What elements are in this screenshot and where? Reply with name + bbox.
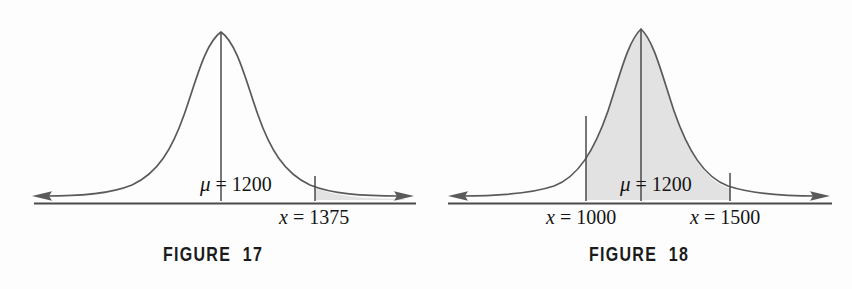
mean-value: 1200: [652, 173, 692, 195]
x-equals: =: [288, 206, 309, 228]
figure-page: μ = 1200 x = 1375 FIGURE 17: [0, 0, 852, 289]
figure-17-caption: FIGURE 17: [38, 243, 387, 266]
figure-17: μ = 1200 x = 1375 FIGURE 17: [0, 0, 426, 289]
mean-equals: =: [631, 173, 652, 195]
x-value: 1000: [576, 206, 616, 228]
x-variable: x: [279, 206, 288, 228]
figure-18-caption: FIGURE 18: [464, 243, 813, 266]
figure-18-boundary-label-x-1500: x = 1500: [690, 207, 760, 227]
x-equals: =: [699, 206, 720, 228]
normal-curve: [44, 32, 400, 196]
mu-symbol: μ: [200, 172, 211, 196]
figure-17-mean-label: μ = 1200: [200, 174, 272, 195]
figure-18: μ = 1200 x = 1000 x = 1500 FIGURE 18: [426, 0, 852, 289]
x-variable: x: [546, 206, 555, 228]
mean-equals: =: [211, 173, 232, 195]
mean-value: 1200: [232, 173, 272, 195]
figure-18-mean-label: μ = 1200: [620, 174, 692, 195]
mu-symbol: μ: [620, 172, 631, 196]
figure-18-boundary-label-x-1000: x = 1000: [546, 207, 616, 227]
x-equals: =: [555, 206, 576, 228]
x-variable: x: [690, 206, 699, 228]
figure-17-boundary-label-x-1375: x = 1375: [279, 207, 349, 227]
figure-18-graphic: [426, 0, 852, 240]
left-arrowhead-icon: [448, 191, 468, 201]
x-value: 1500: [720, 206, 760, 228]
right-arrowhead-icon: [810, 191, 830, 201]
left-arrowhead-icon: [32, 191, 52, 201]
x-value: 1375: [309, 206, 349, 228]
figure-17-graphic: [0, 0, 426, 240]
